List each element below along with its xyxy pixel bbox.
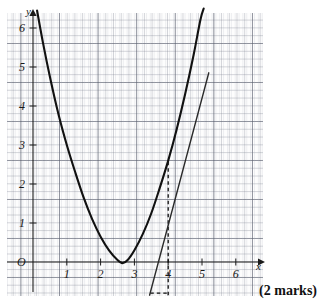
y-tick-label: 5 — [19, 61, 25, 73]
y-tick-label: 4 — [19, 100, 25, 112]
x-tick-label: 5 — [199, 268, 205, 280]
x-tick-label: 4 — [165, 268, 171, 280]
y-axis-title: y — [26, 6, 31, 17]
y-tick-label: 6 — [19, 22, 25, 34]
y-tick-label: 2 — [19, 178, 25, 190]
x-tick-label: 2 — [98, 268, 104, 280]
x-tick-label: 3 — [131, 268, 137, 280]
marks-note: (2 marks) — [259, 283, 317, 299]
x-tick-label: 6 — [233, 268, 239, 280]
plot-canvas — [0, 0, 320, 302]
y-tick-label: 3 — [19, 139, 25, 151]
quadratic-curve — [37, 9, 204, 264]
x-tick-label: 1 — [64, 268, 70, 280]
graph-figure: O y x 123456 123456 (2 marks) — [0, 0, 320, 302]
y-tick-label: 1 — [19, 217, 25, 229]
origin-label: O — [17, 256, 26, 268]
x-axis-title: x — [256, 261, 261, 272]
